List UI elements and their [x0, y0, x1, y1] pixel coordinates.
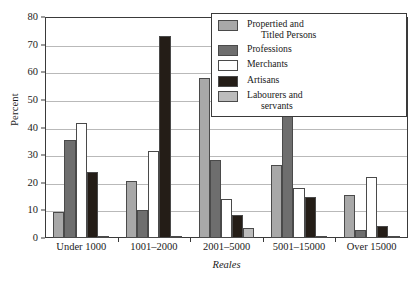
- bar: [210, 160, 221, 238]
- bar: [159, 36, 170, 238]
- x-axis: Under 10001001–20002001–50005001–15000Ov…: [45, 241, 408, 257]
- bar: [87, 172, 98, 238]
- legend-label: Merchants: [247, 59, 288, 70]
- legend-label-line2: Titled Persons: [247, 30, 316, 41]
- legend: Propertied andTitled PersonsProfessionsM…: [211, 13, 407, 117]
- y-axis-tick-label: 30: [28, 150, 39, 161]
- y-axis-tick-label: 40: [28, 122, 39, 133]
- y-axis-tick-label: 10: [28, 205, 39, 216]
- bar: [316, 236, 327, 238]
- x-axis-tick-label: 5001–15000: [273, 241, 326, 252]
- legend-item: Propertied andTitled Persons: [218, 19, 402, 40]
- y-axis-tick-label: 60: [28, 67, 39, 78]
- x-axis-tick-label: 2001–5000: [203, 241, 250, 252]
- bar: [355, 230, 366, 238]
- y-axis-tick-label: 20: [28, 178, 39, 189]
- legend-label: Labourers andservants: [247, 90, 303, 111]
- legend-swatch: [218, 45, 238, 56]
- bar: [232, 215, 243, 238]
- legend-item: Artisans: [218, 75, 402, 87]
- bar: [344, 195, 355, 238]
- y-axis-tick-label: 70: [28, 39, 39, 50]
- bar: [293, 188, 304, 238]
- legend-item: Professions: [218, 44, 402, 56]
- x-axis-tick-label: 1001–2000: [130, 241, 177, 252]
- legend-item: Labourers andservants: [218, 90, 402, 111]
- bar: [243, 228, 254, 238]
- legend-label: Propertied andTitled Persons: [247, 19, 316, 40]
- bar: [366, 177, 377, 238]
- legend-label-line2: servants: [247, 101, 303, 112]
- bar: [271, 165, 282, 238]
- bar: [64, 140, 75, 238]
- bar: [199, 78, 210, 238]
- x-axis-tick-mark: [335, 238, 336, 242]
- bar: [53, 212, 64, 238]
- bar: [388, 236, 399, 238]
- x-axis-title: Reales: [45, 259, 408, 270]
- bar: [221, 199, 232, 238]
- legend-item: Merchants: [218, 59, 402, 71]
- bar: [126, 181, 137, 238]
- bar-group: [126, 17, 182, 238]
- legend-swatch: [218, 60, 238, 71]
- x-axis-tick-mark: [263, 238, 264, 242]
- x-axis-tick-label: Under 1000: [56, 241, 106, 252]
- bar-group: [53, 17, 109, 238]
- bar: [305, 197, 316, 238]
- bar: [148, 151, 159, 238]
- y-axis-tick-label: 50: [28, 95, 39, 106]
- legend-swatch: [218, 20, 238, 31]
- bar-chart: Percent 01020304050607080 Under 10001001…: [0, 0, 419, 281]
- y-axis-tick-label: 0: [33, 233, 38, 244]
- bar: [137, 210, 148, 238]
- bar: [377, 226, 388, 238]
- y-axis-tick-label: 80: [28, 12, 39, 23]
- bar: [76, 123, 87, 238]
- x-axis-tick-label: Over 15000: [347, 241, 397, 252]
- bar: [171, 236, 182, 238]
- y-axis: 01020304050607080: [0, 17, 45, 238]
- legend-label: Artisans: [247, 75, 279, 86]
- bar: [98, 236, 109, 238]
- legend-swatch: [218, 91, 238, 102]
- legend-swatch: [218, 76, 238, 87]
- legend-label: Professions: [247, 44, 292, 55]
- x-axis-tick-mark: [190, 238, 191, 242]
- x-axis-tick-mark: [118, 238, 119, 242]
